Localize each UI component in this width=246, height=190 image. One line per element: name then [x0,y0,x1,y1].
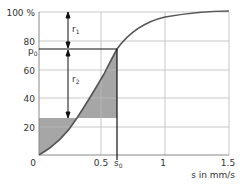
r1-label: r1 [72,24,80,35]
y-tick-100: 100 % [6,8,35,18]
x-tick-s0: s0 [114,158,123,169]
y-tick-p0: p0 [28,46,38,57]
x-axis-label: s in mm/s [191,170,235,180]
shaded-area-left [39,118,77,155]
r2-label: r2 [72,74,80,85]
y-tick-40: 40 [24,94,36,104]
cumulative-chart: r1 r2 100 % 80 p0 60 40 20 0 0.5 s0 1 1.… [0,0,246,190]
x-tick-0.5: 0.5 [94,158,108,168]
x-tick-1.5: 1.5 [221,158,235,168]
y-tick-0: 0 [30,158,36,168]
y-tick-20: 20 [24,123,36,133]
r2-arrow [66,50,70,118]
r1-arrow [66,12,70,48]
x-tick-1: 1 [160,158,166,168]
y-tick-60: 60 [24,66,36,76]
